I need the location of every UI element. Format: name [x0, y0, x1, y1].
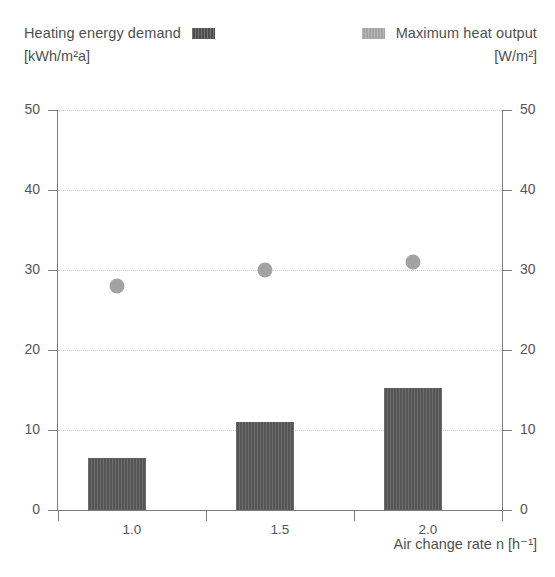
y-tick-left-10	[48, 430, 57, 431]
y-axis-left-line	[57, 110, 58, 511]
x-tick-edge-0	[58, 511, 59, 521]
x-axis-label-1.0: 1.0	[123, 522, 142, 537]
legend-row-primary: Heating energy demand	[24, 23, 215, 44]
y-axis-left-label-30: 30	[24, 261, 40, 277]
legend-entry-heating-energy-demand: Heating energy demand [kWh/m²a]	[24, 23, 215, 67]
y-axis-left-label-20: 20	[24, 341, 40, 357]
y-axis-right-label-40: 40	[520, 181, 536, 197]
y-tick-right-40	[503, 190, 512, 191]
chart-legend: Heating energy demand [kWh/m²a] Maximum …	[0, 0, 555, 92]
maximum-heat-output-swatch	[362, 28, 385, 39]
x-axis-label-2.0: 2.0	[419, 522, 438, 537]
x-tick-1	[206, 511, 207, 521]
datapoint-1.5	[258, 262, 273, 277]
gridline-y-40	[58, 190, 502, 191]
legend-entry-maximum-heat-output: Maximum heat output [W/m²]	[362, 23, 537, 67]
x-axis-label-1.5: 1.5	[271, 522, 290, 537]
x-axis-title: Air change rate n [h⁻¹]	[394, 536, 537, 552]
y-tick-right-0	[503, 510, 512, 511]
y-tick-right-20	[503, 350, 512, 351]
legend-row-secondary: Maximum heat output	[362, 23, 537, 44]
gridline-y-20	[58, 350, 502, 351]
y-tick-right-50	[503, 110, 512, 111]
y-axis-right-line	[502, 110, 503, 511]
plot-area: 00101020203030404050501.01.52.0	[58, 110, 502, 510]
heating-energy-demand-swatch	[192, 28, 215, 39]
bar-1.5	[236, 422, 294, 510]
y-tick-left-40	[48, 190, 57, 191]
x-tick-edge-3	[502, 511, 503, 521]
bar-2.0	[384, 388, 442, 510]
y-axis-left-label-50: 50	[24, 101, 40, 117]
y-tick-left-50	[48, 110, 57, 111]
x-axis-line	[57, 510, 503, 511]
legend-unit-maximum-heat-output: [W/m²]	[362, 46, 537, 67]
y-axis-left-label-10: 10	[24, 421, 40, 437]
y-tick-left-0	[48, 510, 57, 511]
y-axis-left-label-0: 0	[32, 501, 40, 517]
legend-label-maximum-heat-output: Maximum heat output	[396, 23, 537, 44]
chart-figure: Heating energy demand [kWh/m²a] Maximum …	[0, 0, 555, 577]
y-axis-right-label-10: 10	[520, 421, 536, 437]
x-tick-2	[354, 511, 355, 521]
y-tick-right-10	[503, 430, 512, 431]
y-axis-right-label-50: 50	[520, 101, 536, 117]
legend-label-heating-energy-demand: Heating energy demand	[24, 23, 181, 44]
y-tick-left-20	[48, 350, 57, 351]
gridline-y-50	[58, 110, 502, 111]
datapoint-1.0	[110, 278, 125, 293]
y-axis-right-label-0: 0	[520, 501, 528, 517]
y-axis-left-label-40: 40	[24, 181, 40, 197]
y-tick-left-30	[48, 270, 57, 271]
y-axis-right-label-20: 20	[520, 341, 536, 357]
legend-unit-heating-energy-demand: [kWh/m²a]	[24, 46, 215, 67]
gridline-y-30	[58, 270, 502, 271]
datapoint-2.0	[406, 254, 421, 269]
y-axis-right-label-30: 30	[520, 261, 536, 277]
bar-1.0	[88, 458, 146, 510]
y-tick-right-30	[503, 270, 512, 271]
